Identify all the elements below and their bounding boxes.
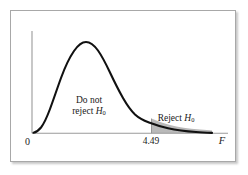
- null-hypothesis-symbol: H0: [96, 106, 106, 116]
- reject-text: Reject: [158, 113, 185, 123]
- label-do-not-reject-region: Do not reject H0: [58, 95, 120, 116]
- label-reject-region: Reject H0: [158, 113, 195, 124]
- do-not-reject-line2: reject: [72, 106, 95, 116]
- x-tick-label-critical-value: 4.49: [143, 136, 160, 147]
- x-tick-label-origin: 0: [25, 136, 30, 147]
- do-not-reject-line1: Do not: [76, 95, 102, 105]
- x-axis-label: F: [219, 135, 225, 147]
- figure-container: Do not reject H0 Reject H0 0 4.49 F: [0, 0, 248, 175]
- null-hypothesis-symbol: H0: [184, 113, 194, 123]
- f-distribution-chart: [0, 0, 248, 175]
